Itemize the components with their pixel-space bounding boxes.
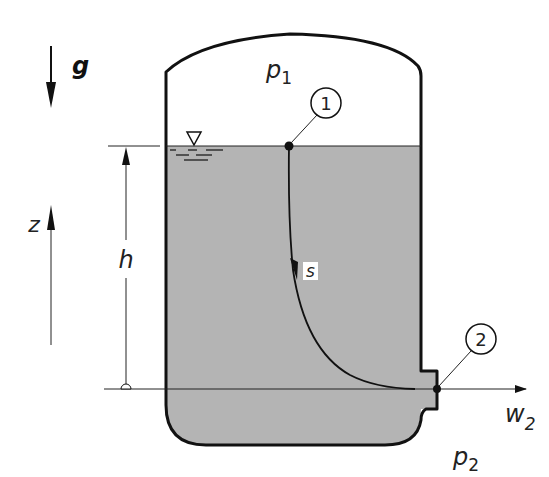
z-axis-label: z <box>27 212 40 237</box>
point-2-leader <box>439 351 471 386</box>
liquid-fill <box>166 146 437 445</box>
streamline-label: s <box>306 261 315 281</box>
z-axis-arrow-icon <box>47 205 55 230</box>
gravity-arrow-icon <box>46 82 56 108</box>
h-arrowhead-icon <box>122 147 130 165</box>
point-1-leader <box>291 115 317 143</box>
point-1-label: 1 <box>320 93 331 114</box>
h-origin-icon <box>121 384 131 389</box>
tank-diagram: h g z p1 s 1 2 w2 p2 <box>0 0 549 477</box>
point-2-dot <box>433 385 441 393</box>
point-2-label: 2 <box>475 329 486 350</box>
pressure-out-label: p2 <box>452 443 479 475</box>
point-1-dot <box>285 142 294 151</box>
gravity-label: g <box>72 52 89 80</box>
outlet-velocity-label: w2 <box>505 400 535 434</box>
pressure-top-label: p1 <box>265 56 292 88</box>
height-label: h <box>118 246 133 274</box>
